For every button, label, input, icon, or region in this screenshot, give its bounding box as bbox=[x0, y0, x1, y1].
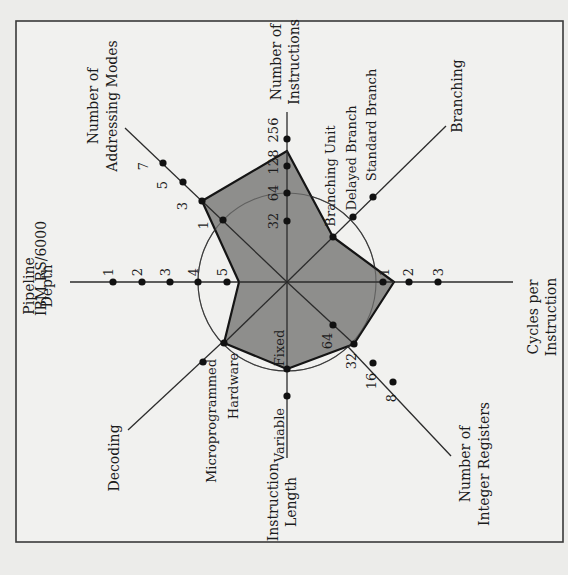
tick-instructions-256: 256 bbox=[266, 118, 281, 143]
tick-addressing-3: 3 bbox=[175, 202, 190, 210]
label-addressing-2: Addressing Modes bbox=[104, 40, 120, 172]
tick-pipeline-4: 4 bbox=[186, 268, 201, 276]
kiviat-figure: IBM RS/6000 Number of Instructions Branc… bbox=[0, 0, 568, 575]
label-addressing-1: Number of bbox=[85, 66, 101, 144]
label-decoding: Decoding bbox=[106, 424, 122, 491]
label-registers-2: Integer Registers bbox=[476, 402, 492, 526]
tick-registers-64: 64 bbox=[320, 333, 335, 350]
dot-registers-16 bbox=[369, 359, 376, 366]
label-instructions-1: Number of bbox=[268, 22, 284, 100]
label-length-1: Instruction bbox=[265, 463, 281, 541]
tick-instructions-32: 32 bbox=[266, 213, 281, 230]
tick-cycles-3: 3 bbox=[431, 268, 446, 276]
tick-standard-branch: Standard Branch bbox=[364, 68, 379, 181]
dot-registers-32 bbox=[350, 340, 357, 347]
tick-decoding-hardware: Hardware bbox=[226, 352, 241, 419]
tick-addressing-1: 1 bbox=[196, 221, 211, 229]
tick-addressing-5: 5 bbox=[155, 181, 170, 189]
dot-cycles-2 bbox=[405, 278, 412, 285]
tick-branching-unit: Branching Unit bbox=[323, 125, 338, 227]
dot-pipeline-1 bbox=[109, 278, 116, 285]
dot-registers-64 bbox=[329, 321, 336, 328]
dot-addressing-5 bbox=[179, 178, 186, 185]
tick-instructions-128: 128 bbox=[266, 150, 281, 175]
dot-branching-unit bbox=[329, 233, 336, 240]
dot-decoding-hardware bbox=[220, 339, 227, 346]
tick-cycles-2: 2 bbox=[401, 268, 416, 276]
dot-instructions-128 bbox=[283, 162, 290, 169]
dot-instructions-64 bbox=[283, 189, 290, 196]
dot-standard-branch bbox=[369, 193, 376, 200]
label-cycles-2: Instruction bbox=[543, 278, 559, 356]
tick-cycles-1: 1 bbox=[377, 268, 392, 276]
dot-pipeline-4 bbox=[194, 278, 201, 285]
dot-cycles-1 bbox=[379, 278, 386, 285]
dot-instructions-32 bbox=[283, 217, 290, 224]
dot-cycles-3 bbox=[434, 278, 441, 285]
tick-registers-16: 16 bbox=[364, 373, 379, 390]
dot-pipeline-5 bbox=[223, 278, 230, 285]
tick-registers-8: 8 bbox=[384, 394, 399, 402]
dot-addressing-1 bbox=[219, 216, 226, 223]
tick-registers-32: 32 bbox=[344, 353, 359, 370]
label-length-2: Length bbox=[283, 477, 299, 527]
tick-length-variable: Variable bbox=[272, 408, 287, 464]
dot-pipeline-3 bbox=[166, 278, 173, 285]
dot-addressing-7 bbox=[159, 159, 166, 166]
label-cycles-1: Cycles per bbox=[525, 279, 541, 354]
label-pipeline-1: Pipeline bbox=[21, 257, 37, 314]
label-instructions-2: Instructions bbox=[286, 19, 302, 105]
tick-pipeline-5: 5 bbox=[215, 268, 230, 276]
dot-registers-8 bbox=[389, 378, 396, 385]
tick-pipeline-3: 3 bbox=[158, 268, 173, 276]
label-pipeline-2: Depth bbox=[39, 264, 55, 307]
tick-length-fixed: Fixed bbox=[272, 330, 287, 367]
dot-instructions-256 bbox=[283, 135, 290, 142]
tick-addressing-7: 7 bbox=[136, 162, 151, 170]
tick-pipeline-2: 2 bbox=[130, 268, 145, 276]
tick-instructions-64: 64 bbox=[266, 185, 281, 202]
dot-delayed-branch bbox=[349, 213, 356, 220]
dot-pipeline-2 bbox=[138, 278, 145, 285]
tick-pipeline-1: 1 bbox=[101, 268, 116, 276]
dot-addressing-3 bbox=[198, 197, 205, 204]
label-branching: Branching bbox=[449, 59, 465, 133]
tick-delayed-branch: Delayed Branch bbox=[344, 105, 359, 211]
label-registers-1: Number of bbox=[457, 424, 473, 502]
kiviat-diagram: IBM RS/6000 Number of Instructions Branc… bbox=[0, 0, 568, 575]
dot-length-variable bbox=[283, 392, 290, 399]
tick-decoding-microprogrammed: Microprogrammed bbox=[204, 359, 219, 483]
